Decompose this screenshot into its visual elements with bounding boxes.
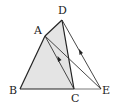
shaded-region-abcd: [20, 20, 74, 89]
label-d: D: [58, 4, 67, 17]
label-a: A: [33, 24, 43, 37]
label-c: C: [71, 92, 79, 105]
geometry-diagram: D A B C E: [0, 0, 124, 105]
parallel-arrow-de: [79, 49, 83, 55]
label-e: E: [102, 84, 110, 97]
label-b: B: [9, 84, 17, 97]
